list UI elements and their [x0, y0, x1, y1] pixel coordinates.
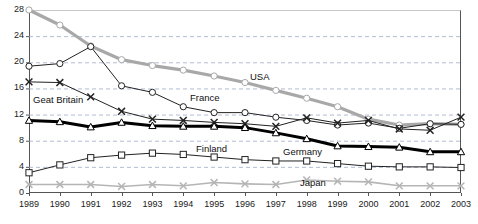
series-label-france: France [190, 93, 220, 103]
series-label-geat-britain: Geat Britain [33, 95, 83, 105]
y-tick-label: 0 [2, 188, 24, 197]
series-japan [26, 177, 465, 190]
y-tick-label: 8 [2, 136, 24, 145]
y-tick-label: 12 [2, 110, 24, 119]
x-tick-label: 2003 [441, 199, 478, 209]
y-tick-label: 28 [2, 5, 24, 14]
x-tick-marks [30, 193, 462, 196]
y-tick-label: 4 [2, 162, 24, 171]
series-label-germany: Germany [283, 147, 322, 157]
y-tick-marks [26, 11, 29, 194]
line-chart: 2824201612840 19891990199119921993199419… [0, 0, 478, 224]
y-tick-label: 16 [2, 83, 24, 92]
chart-canvas [0, 0, 478, 224]
y-tick-label: 20 [2, 57, 24, 66]
series-layer [25, 7, 464, 190]
y-tick-label: 24 [2, 31, 24, 40]
series-france [26, 44, 464, 132]
gridlines [29, 11, 461, 168]
series-finland [26, 150, 464, 176]
series-label-japan: Japan [300, 178, 326, 188]
series-label-usa: USA [250, 72, 270, 82]
series-label-finland: Finland [196, 144, 227, 154]
